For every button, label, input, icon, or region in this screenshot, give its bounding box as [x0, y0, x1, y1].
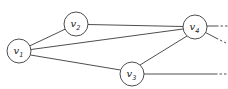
edge-v1-v4	[31, 29, 183, 50]
graph-diagram: v1 v2 v3 v4	[0, 0, 228, 89]
edge-v1-v3	[31, 55, 121, 70]
node-v3: v3	[120, 62, 144, 86]
node-v2: v2	[64, 12, 88, 36]
edge-v3-v4	[140, 36, 187, 65]
edge-v4-downright-solid	[206, 33, 217, 39]
edge-v4-downright-dashed	[216, 38, 226, 43]
edge-v1-v2	[30, 29, 66, 46]
node-v4: v4	[183, 15, 207, 39]
edge-v2-v4	[88, 25, 183, 27]
node-v1: v1	[7, 39, 31, 63]
